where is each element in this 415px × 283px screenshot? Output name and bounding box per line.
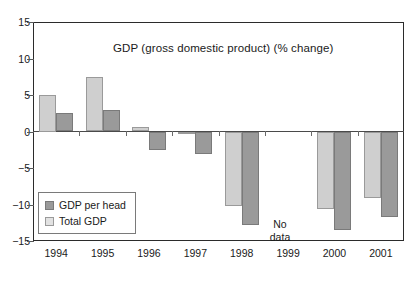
bar-gdp-per-head	[56, 113, 73, 131]
legend-item-total-gdp: Total GDP	[45, 213, 130, 229]
x-tick-label: 1995	[80, 247, 126, 259]
x-axis: 19941995199619971998199920002001	[0, 247, 415, 267]
x-tick	[265, 131, 266, 136]
x-tick-label: 2000	[311, 247, 357, 259]
legend-label-gdp-per-head: GDP per head	[59, 200, 126, 211]
x-tick-label: 1997	[172, 247, 218, 259]
y-tick	[27, 168, 34, 169]
bar-gdp-per-head	[334, 132, 351, 230]
x-tick-label: 2001	[358, 247, 404, 259]
no-data-line2: data	[252, 231, 308, 244]
y-axis: 151050−5−10−15	[0, 0, 30, 283]
bar-total-gdp	[132, 127, 149, 131]
x-tick-label: 1994	[33, 247, 79, 259]
x-tick	[219, 131, 220, 136]
chart-title: GDP (gross domestic product) (% change)	[113, 42, 333, 54]
legend-swatch-icon-total-gdp	[45, 217, 54, 226]
legend: GDP per head Total GDP	[38, 192, 136, 234]
y-tick	[27, 95, 34, 96]
chart-container: 151050−5−10−15 1994199519961997199819992…	[0, 0, 415, 283]
bar-gdp-per-head	[381, 132, 398, 217]
bar-gdp-per-head	[195, 132, 212, 154]
x-tick-label: 1996	[126, 247, 172, 259]
x-tick	[311, 131, 312, 136]
x-tick	[358, 131, 359, 136]
bar-gdp-per-head	[103, 110, 120, 131]
bar-gdp-per-head	[149, 132, 166, 150]
y-tick	[27, 205, 34, 206]
bar-total-gdp	[364, 132, 381, 198]
x-tick	[172, 131, 173, 136]
y-tick	[27, 241, 34, 242]
y-tick	[27, 22, 34, 23]
no-data-annotation: No data	[252, 218, 308, 243]
bar-total-gdp	[178, 132, 195, 134]
y-tick	[27, 59, 34, 60]
x-tick-label: 1999	[265, 247, 311, 259]
x-tick-label: 1998	[219, 247, 265, 259]
legend-swatch-icon-gdp-per-head	[45, 201, 54, 210]
x-tick	[79, 131, 80, 136]
y-tick	[27, 132, 34, 133]
legend-item-gdp-per-head: GDP per head	[45, 197, 130, 213]
no-data-line1: No	[252, 218, 308, 231]
bar-total-gdp	[39, 95, 56, 132]
bar-total-gdp	[86, 77, 103, 131]
bar-total-gdp	[225, 132, 242, 206]
x-tick	[126, 131, 127, 136]
bar-gdp-per-head	[242, 132, 259, 225]
legend-label-total-gdp: Total GDP	[59, 216, 107, 227]
bar-total-gdp	[317, 132, 334, 209]
